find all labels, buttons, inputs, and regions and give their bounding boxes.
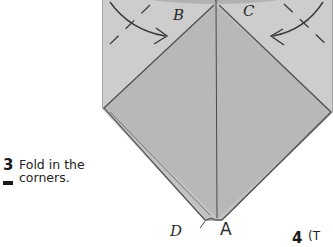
step-4-number: 4 <box>292 229 302 247</box>
step-3-line-2: corners. <box>19 171 85 184</box>
origami-diagram <box>0 0 333 247</box>
step-4-instruction-partial: (T <box>308 230 320 243</box>
corner-label-c: C <box>243 2 254 20</box>
step-3-instruction: Fold in the corners. <box>19 158 85 184</box>
corner-label-b: B <box>173 6 184 24</box>
step-3-number: 3 <box>3 156 13 174</box>
step-3-underline <box>3 181 13 185</box>
corner-label-d: D <box>170 222 182 240</box>
corner-label-a: A <box>220 219 232 239</box>
